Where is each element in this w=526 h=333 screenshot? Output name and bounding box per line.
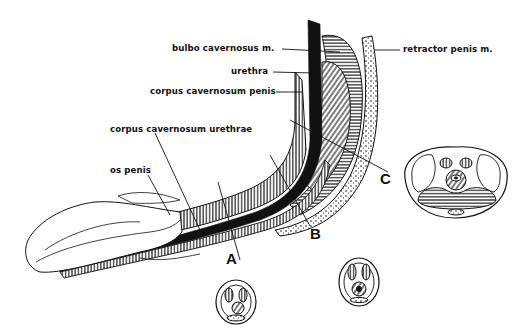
cross-section-c — [405, 147, 508, 218]
section-label-a: A — [226, 250, 237, 267]
label-corpus-cavernosum-urethrae: corpus cavernosum urethrae — [110, 124, 252, 134]
label-os-penis: os penis — [110, 165, 151, 175]
section-label-b: B — [310, 225, 321, 242]
label-bulbo-cavernosus: bulbo cavernosus m. — [172, 43, 274, 53]
section-label-c: C — [380, 170, 391, 187]
label-retractor-penis: retractor penis m. — [403, 44, 493, 54]
cross-section-a — [216, 280, 256, 324]
label-corpus-cavernosum-penis: corpus cavernosum penis — [150, 86, 276, 96]
cross-section-b — [339, 258, 379, 306]
os-penis-glans — [26, 202, 182, 273]
glans-fold — [118, 193, 180, 204]
label-urethra: urethra — [231, 66, 268, 76]
